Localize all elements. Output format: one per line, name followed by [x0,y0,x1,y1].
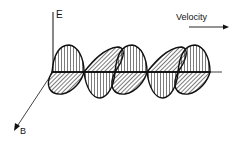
b-axis-line [16,72,53,128]
em-wave-diagram: E B Velocity [0,0,240,145]
e-axis-label: E [56,9,63,20]
b-axis-label: B [20,126,26,136]
velocity-indicator [189,25,229,30]
velocity-arrow-icon [223,25,229,30]
velocity-label: Velocity [176,12,208,22]
